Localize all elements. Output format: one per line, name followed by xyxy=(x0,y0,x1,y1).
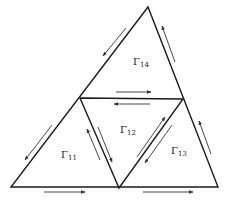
gamma-symbol: Γ xyxy=(133,56,140,67)
arrow-upper-right-edge xyxy=(162,26,175,62)
arrow-inner-right-edge-up xyxy=(137,117,165,157)
gamma-symbol: Γ xyxy=(171,145,178,156)
gamma-subscript: 11 xyxy=(68,154,77,162)
region-label-gamma-12: Γ12 xyxy=(120,125,136,137)
triangle-subdivision-diagram xyxy=(0,0,229,200)
gamma-symbol: Γ xyxy=(120,124,127,135)
region-label-gamma-13: Γ13 xyxy=(171,146,187,158)
inner-triangle xyxy=(80,98,183,188)
arrow-lower-right-edge xyxy=(199,121,211,154)
arrow-lower-left-edge xyxy=(25,125,52,160)
gamma-subscript: 14 xyxy=(140,61,149,69)
gamma-subscript: 13 xyxy=(178,150,187,158)
gamma-symbol: Γ xyxy=(61,149,68,160)
arrow-inner-left-edge-up xyxy=(87,129,100,160)
region-label-gamma-11: Γ11 xyxy=(61,150,77,162)
gamma-subscript: 12 xyxy=(127,129,136,137)
region-label-gamma-14: Γ14 xyxy=(133,57,149,69)
outer-triangle xyxy=(11,7,218,187)
diagram-canvas: Γ14 Γ12 Γ11 Γ13 xyxy=(0,0,229,200)
arrow-inner-right-edge-down xyxy=(145,125,172,163)
